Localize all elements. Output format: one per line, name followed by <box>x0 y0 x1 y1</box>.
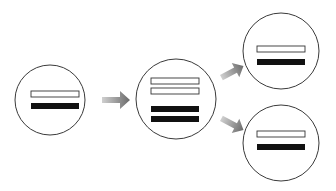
solid-bar <box>151 116 199 122</box>
solid-bar <box>31 103 79 109</box>
hollow-bar <box>151 88 199 94</box>
solid-bar <box>257 144 305 150</box>
circle-bottom-right <box>243 105 319 181</box>
solid-bar <box>257 59 305 65</box>
node-top-right <box>243 13 319 89</box>
arrow-left-to-middle-icon <box>102 91 130 109</box>
arrow-middle-to-bottom-right-icon <box>218 111 248 137</box>
circle-left <box>15 65 85 135</box>
node-left <box>15 65 85 135</box>
node-bottom-right <box>243 105 319 181</box>
circle-middle <box>136 59 216 139</box>
node-middle <box>136 59 216 139</box>
arrow-middle-to-top-right-icon <box>218 59 248 85</box>
hollow-bar <box>257 131 305 137</box>
solid-bar <box>151 106 199 112</box>
hollow-bar <box>31 91 79 97</box>
hollow-bar <box>151 78 199 84</box>
diagram-canvas <box>0 0 336 191</box>
hollow-bar <box>257 46 305 52</box>
